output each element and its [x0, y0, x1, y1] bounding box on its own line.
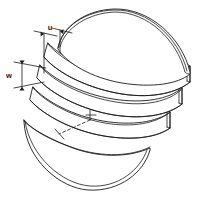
dimension-u-label: u [48, 23, 53, 32]
dimension-w-label: w [5, 71, 12, 80]
sliced-sphere-diagram: .o { fill:#ffffff; stroke:#1a1a1a; strok… [0, 0, 206, 202]
figure-canvas: .o { fill:#ffffff; stroke:#1a1a1a; strok… [0, 0, 206, 202]
